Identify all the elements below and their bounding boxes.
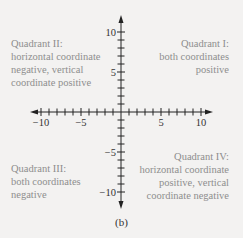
quadrant-iii-label: Quadrant III: both coordinates negative: [11, 162, 81, 201]
quadrant-i-label: Quadrant I: both coordinates positive: [159, 37, 229, 76]
x-axis-right-arrow-icon: [205, 110, 213, 115]
figure-caption: (b): [0, 216, 243, 228]
x-tick-label-10: 10: [196, 117, 207, 128]
quadrant-i-line-2: both coordinates: [159, 50, 229, 63]
quadrant-ii-line-1: Quadrant II:: [11, 37, 101, 50]
quadrant-i-line-3: positive: [159, 63, 229, 76]
quadrant-ii-line-2: horizontal coordinate: [11, 50, 101, 63]
quadrant-iii-line-3: negative: [11, 188, 81, 201]
y-tick-label-10: 10: [106, 27, 117, 38]
quadrant-iv-line-2: horizontal coordinate: [139, 163, 229, 176]
y-tick-label-5: 5: [111, 67, 116, 78]
quadrant-iv-label: Quadrant IV: horizontal coordinate posit…: [139, 150, 229, 202]
x-tick-label-neg10: −10: [33, 117, 49, 128]
quadrant-iv-line-1: Quadrant IV:: [139, 150, 229, 163]
quadrant-ii-line-4: coordinate positive: [11, 76, 101, 89]
y-tick-label-neg5: −5: [105, 147, 116, 158]
coordinate-plane: −10 −5 5 10 10 5 −5 −10: [0, 0, 243, 238]
quadrant-iv-line-4: coordinate negative: [139, 189, 229, 202]
x-tick-label-neg5: −5: [75, 117, 86, 128]
y-axis-bottom-arrow-icon: [119, 201, 124, 209]
quadrant-ii-line-3: negative, vertical: [11, 63, 101, 76]
x-axis-left-arrow-icon: [30, 110, 38, 115]
quadrant-iii-line-2: both coordinates: [11, 175, 81, 188]
x-tick-label-5: 5: [158, 117, 163, 128]
y-axis-top-arrow-icon: [119, 15, 124, 23]
x-tick-labels: −10 −5 5 10: [33, 117, 206, 128]
quadrant-iv-line-3: positive, vertical: [139, 176, 229, 189]
quadrant-ii-label: Quadrant II: horizontal coordinate negat…: [11, 37, 101, 89]
quadrant-i-line-1: Quadrant I:: [159, 37, 229, 50]
quadrant-iii-line-1: Quadrant III:: [11, 162, 81, 175]
y-tick-label-neg10: −10: [100, 187, 116, 198]
